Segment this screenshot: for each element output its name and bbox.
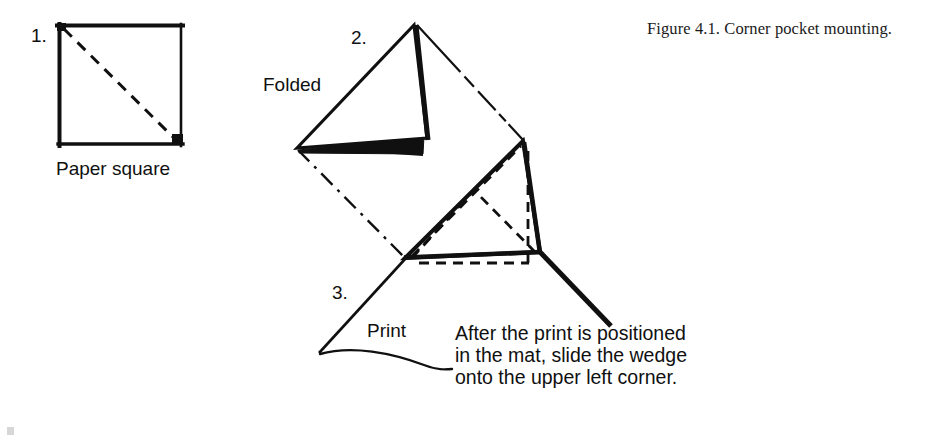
instruction-text: After the print is positioned in the mat… [455,322,687,388]
figure-page: 1. Paper square 2. Folded [0,0,931,445]
corner-pocket-figure: 1. Paper square 2. Folded [0,0,931,445]
instruction-leader-line [320,350,452,369]
print-label: Print [367,320,407,341]
ghost-fold-chain-line [298,150,406,259]
instruction-line-3: onto the upper left corner. [455,366,677,388]
wedge-back-edge [417,25,524,141]
step-3-number: 3. [332,282,348,303]
step-1-group: 1. Paper square [31,23,183,179]
figure-caption: Figure 4.1. Corner pocket mounting. [647,18,915,39]
paper-square-label: Paper square [56,158,170,179]
pocket-triangle [405,141,540,258]
step-2-number: 2. [351,27,367,48]
folded-label: Folded [263,74,321,95]
instruction-line-2: in the mat, slide the wedge [455,344,687,366]
registration-mark [7,427,14,435]
fold-diagonal-dashed [64,29,177,141]
step-1-number: 1. [31,25,47,46]
instruction-line-1: After the print is positioned [455,322,686,344]
print-right-edge [540,252,611,326]
